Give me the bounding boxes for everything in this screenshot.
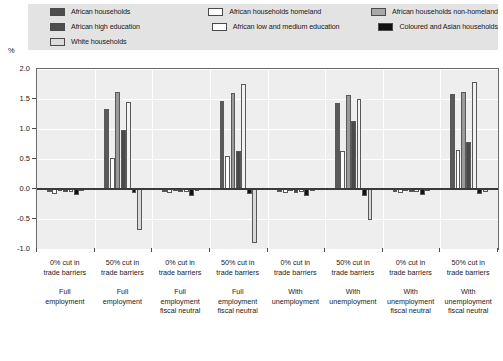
bar — [241, 84, 246, 189]
x-axis — [36, 248, 498, 252]
legend-item-african-households-non-homeland: African households non-homeland — [371, 8, 498, 16]
x-category-line: Full — [151, 287, 209, 297]
bar — [456, 150, 461, 189]
y-tick-label: 1.0 — [0, 124, 30, 133]
x-category-line: unemployment — [382, 297, 440, 307]
x-category-line: trade barriers — [267, 268, 325, 278]
bar-group — [37, 69, 95, 249]
bar — [340, 151, 345, 189]
x-tick-mark — [324, 248, 325, 252]
x-tick-mark — [36, 248, 37, 252]
bar — [104, 109, 109, 189]
x-category-label: 50% cut intrade barriersWithunemployment… — [439, 258, 497, 316]
legend-label: Coloured and Asian households — [399, 23, 498, 31]
y-tick-label: 0.0 — [0, 184, 30, 193]
legend-swatch-icon — [208, 8, 223, 16]
bar — [231, 93, 236, 189]
bar — [220, 101, 225, 189]
y-tick-label: -0.5 — [0, 214, 30, 223]
bar-group — [440, 69, 498, 249]
x-category-line: Full — [36, 287, 94, 297]
x-category-line: 0% cut in — [36, 258, 94, 268]
legend-item-african-households-homeland: African households homeland — [208, 8, 371, 16]
bar — [466, 142, 471, 189]
legend-label: African households non-homeland — [392, 8, 498, 16]
legend-label: African households homeland — [229, 8, 321, 16]
x-category-line: unemployment — [267, 297, 325, 307]
bar — [126, 102, 131, 189]
x-tick-mark — [94, 248, 95, 252]
bar — [52, 189, 57, 194]
legend-row-1: African households African households ho… — [28, 4, 498, 19]
chart-legend: African households African households ho… — [28, 4, 498, 50]
x-category-label: 0% cut intrade barriersFullemploymentfis… — [151, 258, 209, 316]
x-category-line: employment — [209, 297, 267, 307]
x-category-line: 50% cut in — [209, 258, 267, 268]
bar — [472, 82, 477, 189]
x-category-line: Full — [209, 287, 267, 297]
x-category-label: 0% cut intrade barriersWithunemploymentf… — [382, 258, 440, 316]
legend-swatch-icon — [50, 23, 65, 31]
bar — [121, 130, 126, 189]
x-category-line: employment — [94, 297, 152, 307]
bar — [335, 103, 340, 189]
x-category-line: trade barriers — [151, 268, 209, 278]
legend-row-3: White households — [28, 34, 498, 49]
legend-swatch-icon — [50, 8, 65, 16]
bar — [450, 94, 455, 189]
bar — [74, 189, 79, 195]
x-category-line: 0% cut in — [267, 258, 325, 268]
zero-baseline — [37, 188, 498, 189]
x-category-line: trade barriers — [382, 268, 440, 278]
bar — [236, 151, 241, 189]
x-category-line: trade barriers — [94, 268, 152, 278]
x-category-line: With — [267, 287, 325, 297]
bar — [351, 121, 356, 189]
x-category-line: employment — [36, 297, 94, 307]
x-tick-mark — [497, 248, 498, 252]
x-category-line: unemployment — [324, 297, 382, 307]
x-category-line: trade barriers — [439, 268, 497, 278]
x-category-line: fiscal neutral — [439, 306, 497, 316]
x-axis-labels: 0% cut intrade barriersFullemployment50%… — [36, 258, 498, 358]
bar — [477, 189, 482, 194]
x-category-line: unemployment — [439, 297, 497, 307]
bar — [252, 189, 257, 243]
bar — [362, 189, 367, 196]
bar — [225, 156, 230, 189]
legend-swatch-icon — [50, 38, 65, 46]
bar-group — [268, 69, 326, 249]
bar — [247, 189, 252, 194]
x-category-line: fiscal neutral — [209, 306, 267, 316]
bar — [189, 189, 194, 196]
x-category-label: 50% cut intrade barriersWithunemployment — [324, 258, 382, 306]
bar — [346, 95, 351, 189]
bar-group — [325, 69, 383, 249]
x-tick-mark — [439, 248, 440, 252]
y-tick-label: 1.5 — [0, 94, 30, 103]
legend-item-coloured-and-asian-households: Coloured and Asian households — [378, 23, 498, 31]
bar — [110, 158, 115, 189]
x-category-line: trade barriers — [209, 268, 267, 278]
y-tick-label: 2.0 — [0, 64, 30, 73]
x-tick-mark — [151, 248, 152, 252]
legend-item-african-households: African households — [28, 8, 208, 16]
x-category-line: 50% cut in — [324, 258, 382, 268]
legend-row-2: African high education African low and m… — [28, 19, 498, 34]
x-category-label: 50% cut intrade barriersFullemployment — [94, 258, 152, 306]
bar — [357, 99, 362, 189]
x-category-label: 0% cut intrade barriersWithunemployment — [267, 258, 325, 306]
legend-item-african-low-and-medium-education: African low and medium education — [212, 23, 379, 31]
bar — [137, 189, 142, 230]
x-category-line: With — [324, 287, 382, 297]
x-category-line: fiscal neutral — [151, 306, 209, 316]
legend-label: African households — [71, 8, 130, 16]
bar-group — [95, 69, 153, 249]
bar-group — [383, 69, 441, 249]
bar-group — [210, 69, 268, 249]
x-category-line: trade barriers — [324, 268, 382, 278]
legend-swatch-icon — [371, 8, 386, 16]
x-category-line: fiscal neutral — [382, 306, 440, 316]
bar-group — [152, 69, 210, 249]
x-category-line: 50% cut in — [94, 258, 152, 268]
